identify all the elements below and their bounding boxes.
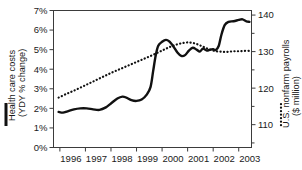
x-tick-label: 1996	[60, 153, 81, 164]
right-tick-label: 120	[258, 83, 274, 94]
x-tick-label: 2001	[188, 153, 209, 164]
chart-container: Health care costs (YDY % change) U.S. no…	[0, 0, 302, 170]
x-axis-ticks: 19961997199819992000200120022003	[60, 148, 260, 164]
left-axis-ticks: 0%1%2%3%4%5%6%7%	[34, 5, 54, 153]
left-tick-label: 5%	[34, 44, 48, 55]
right-tick-label: 140	[258, 9, 274, 20]
left-tick-label: 4%	[34, 64, 48, 75]
x-tick-label: 2002	[214, 153, 235, 164]
series-line-health-care-costs	[59, 19, 250, 112]
right-tick-label: 130	[258, 46, 274, 57]
right-axis-title-line1: U.S. nonfarm payrolls	[281, 39, 291, 128]
x-tick-label: 1998	[111, 153, 132, 164]
x-tick-label: 1999	[137, 153, 158, 164]
left-axis-title-line1: Health care costs	[7, 50, 17, 121]
left-tick-label: 2%	[34, 103, 48, 114]
x-tick-label: 1997	[86, 153, 107, 164]
right-axis-title-line2: ($ million)	[291, 76, 301, 116]
left-axis-title-line2: (YDY % change)	[17, 49, 27, 117]
right-axis-ticks: 110120130140	[252, 9, 274, 142]
dual-axis-line-chart: Health care costs (YDY % change) U.S. no…	[0, 0, 302, 170]
left-tick-label: 3%	[34, 83, 48, 94]
x-tick-label: 2000	[163, 153, 184, 164]
left-tick-label: 6%	[34, 24, 48, 35]
left-tick-label: 7%	[34, 5, 48, 16]
left-tick-label: 0%	[34, 142, 48, 153]
right-tick-label: 110	[258, 119, 273, 130]
left-tick-label: 1%	[34, 122, 48, 133]
x-tick-label: 2003	[239, 153, 260, 164]
